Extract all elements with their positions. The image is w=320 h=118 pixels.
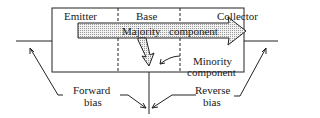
reverse-bias-line1: Reverse <box>195 85 230 96</box>
component-label: component <box>169 26 218 37</box>
majority-label: Majority <box>122 26 161 37</box>
minority-label-line2: component <box>187 67 236 78</box>
reverse-bias-line2: bias <box>203 97 221 108</box>
forward-bias-line2: bias <box>84 97 102 108</box>
base-current-arrow <box>138 38 154 66</box>
base-label: Base <box>136 11 157 22</box>
collector-label: Collector <box>217 11 258 22</box>
forward-bias-line1: Forward <box>73 85 110 96</box>
minority-arrow <box>160 56 180 64</box>
emitter-label: Emitter <box>64 11 97 22</box>
